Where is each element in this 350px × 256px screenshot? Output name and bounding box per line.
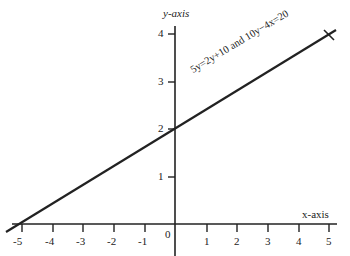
graph — [0, 0, 350, 256]
x-tick-label: -5 — [13, 235, 22, 247]
x-tick-label: 3 — [265, 235, 271, 247]
y-tick-label: 1 — [158, 170, 164, 182]
x-axis-label: x-axis — [302, 208, 329, 220]
x-tick-label: 4 — [296, 235, 302, 247]
x-tick-label: -4 — [45, 235, 54, 247]
y-axis-label: y-axis — [163, 7, 189, 19]
y-tick-label: 4 — [158, 27, 164, 39]
x-tick-label: 5 — [326, 235, 332, 247]
origin-label: 0 — [165, 228, 171, 240]
x-tick-label: 2 — [234, 235, 240, 247]
x-tick-label: -3 — [76, 235, 85, 247]
equation-line — [6, 30, 336, 232]
x-tick-label: -2 — [107, 235, 116, 247]
y-tick-label: 2 — [158, 122, 164, 134]
x-tick-label: 1 — [204, 235, 210, 247]
x-tick-label: -1 — [138, 235, 147, 247]
y-ticks — [168, 34, 175, 177]
y-tick-label: 3 — [158, 75, 164, 87]
